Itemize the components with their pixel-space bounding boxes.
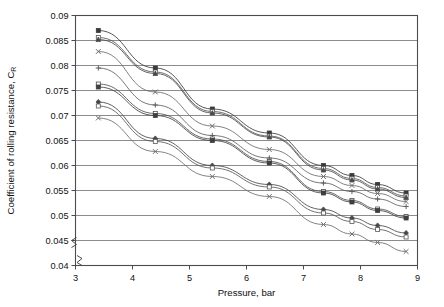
series-line <box>98 87 406 218</box>
series-line <box>98 106 406 237</box>
series-7 <box>96 85 408 220</box>
y-tick-label-0.08: 0.08 <box>51 61 69 71</box>
rolling-resistance-line-chart: 0.040.0450.050.0550.060.0650.070.0750.08… <box>0 0 444 307</box>
data-point <box>267 185 271 189</box>
series-3 <box>96 37 408 200</box>
y-tick-label-0.065: 0.065 <box>46 136 69 146</box>
y-tick-label-0.09: 0.09 <box>51 11 69 21</box>
x-tick-label-8: 8 <box>358 273 363 283</box>
y-tick-label-0.04: 0.04 <box>51 261 69 271</box>
y-axis-break-mark-lower <box>77 256 82 266</box>
series-9 <box>96 104 408 239</box>
data-point <box>404 235 408 239</box>
x-axis-ticks: 3456789 <box>73 266 420 283</box>
x-tick-label-5: 5 <box>187 273 192 283</box>
data-point <box>153 66 157 70</box>
chart-container: 0.040.0450.050.0550.060.0650.070.0750.08… <box>0 0 444 307</box>
data-point <box>375 196 380 201</box>
series-line <box>98 68 406 207</box>
y-tick-label-0.085: 0.085 <box>46 36 69 46</box>
y-axis-title-main: Coefficient of rolling resistance, C <box>5 72 16 215</box>
data-point <box>210 139 214 143</box>
data-point <box>376 209 380 213</box>
data-point <box>96 29 100 33</box>
y-tick-label-0.06: 0.06 <box>51 161 69 171</box>
data-point <box>153 140 157 144</box>
series-line <box>98 118 406 252</box>
data-point <box>349 189 354 194</box>
y-axis-ticks: 0.040.0450.050.0550.060.0650.070.0750.08… <box>46 11 76 271</box>
data-point <box>210 166 214 170</box>
y-axis-break-icon <box>72 238 83 266</box>
series-10 <box>96 116 409 254</box>
x-tick-label-4: 4 <box>130 273 135 283</box>
data-point <box>404 216 408 220</box>
y-tick-label-0.045: 0.045 <box>46 236 69 246</box>
data-series-group <box>96 29 409 254</box>
data-point <box>96 85 100 89</box>
data-point <box>321 191 325 195</box>
y-tick-label-0.07: 0.07 <box>51 111 69 121</box>
data-point <box>350 220 354 224</box>
data-point <box>321 180 326 185</box>
series-line <box>98 84 406 217</box>
x-tick-label-6: 6 <box>244 273 249 283</box>
y-tick-label-0.075: 0.075 <box>46 86 69 96</box>
data-point <box>153 102 158 107</box>
series-line <box>98 102 406 233</box>
data-point <box>267 161 271 165</box>
x-tick-label-7: 7 <box>301 273 306 283</box>
series-line <box>98 40 406 198</box>
data-point <box>96 65 101 70</box>
y-axis-title-subscript: R <box>10 67 17 72</box>
x-tick-label-3: 3 <box>73 273 78 283</box>
y-tick-label-0.05: 0.05 <box>51 211 69 221</box>
data-point <box>153 114 157 118</box>
series-line <box>98 38 406 197</box>
data-point <box>96 104 100 108</box>
y-tick-label-0.055: 0.055 <box>46 186 69 196</box>
x-axis-title: Pressure, bar <box>218 287 276 298</box>
data-point <box>404 204 409 209</box>
series-1 <box>96 29 408 196</box>
data-point <box>321 211 325 215</box>
data-point <box>376 228 380 232</box>
data-point <box>350 200 354 204</box>
series-2 <box>96 36 408 199</box>
x-tick-label-9: 9 <box>415 273 420 283</box>
y-axis-title: Coefficient of rolling resistance, CR <box>5 67 17 215</box>
series-line <box>98 52 406 202</box>
